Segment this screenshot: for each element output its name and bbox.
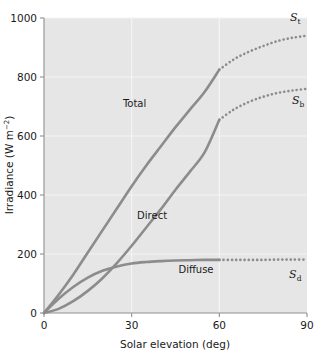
y-tick-label-400: 400 <box>17 189 37 201</box>
y-tick-label-0: 0 <box>30 307 37 319</box>
x-axis-title: Solar elevation (deg) <box>120 338 230 350</box>
chart-figure: 02004006008001000 0306090 Total Direct D… <box>0 0 315 356</box>
total-curve-label: Total <box>122 98 146 109</box>
plot-area-panel <box>44 18 307 313</box>
sd-subscript-glyph: d <box>297 274 302 283</box>
y-tick-label-200: 200 <box>17 248 37 260</box>
x-tick-label-60: 60 <box>213 319 226 331</box>
y-axis-title: Irradiance (W m−2) <box>3 116 15 215</box>
irradiance-vs-solar-elevation-chart: 02004006008001000 0306090 Total Direct D… <box>0 0 315 356</box>
y-axis-title-base: Irradiance (W m <box>3 130 15 214</box>
y-tick-label-600: 600 <box>17 130 37 142</box>
y-tick-label-1000: 1000 <box>10 12 37 24</box>
x-tick-label-0: 0 <box>41 319 48 331</box>
diffuse-curve-label: Diffuse <box>178 264 213 275</box>
x-tick-label-90: 90 <box>300 319 313 331</box>
st-subscript-glyph: t <box>298 17 301 26</box>
y-axis-title-exponent: −2 <box>3 120 11 130</box>
sb-subscript-glyph: b <box>300 100 305 109</box>
x-tick-label-30: 30 <box>125 319 138 331</box>
y-axis-title-tail: ) <box>3 116 15 120</box>
direct-curve-label: Direct <box>137 210 167 221</box>
y-tick-label-800: 800 <box>17 71 37 83</box>
